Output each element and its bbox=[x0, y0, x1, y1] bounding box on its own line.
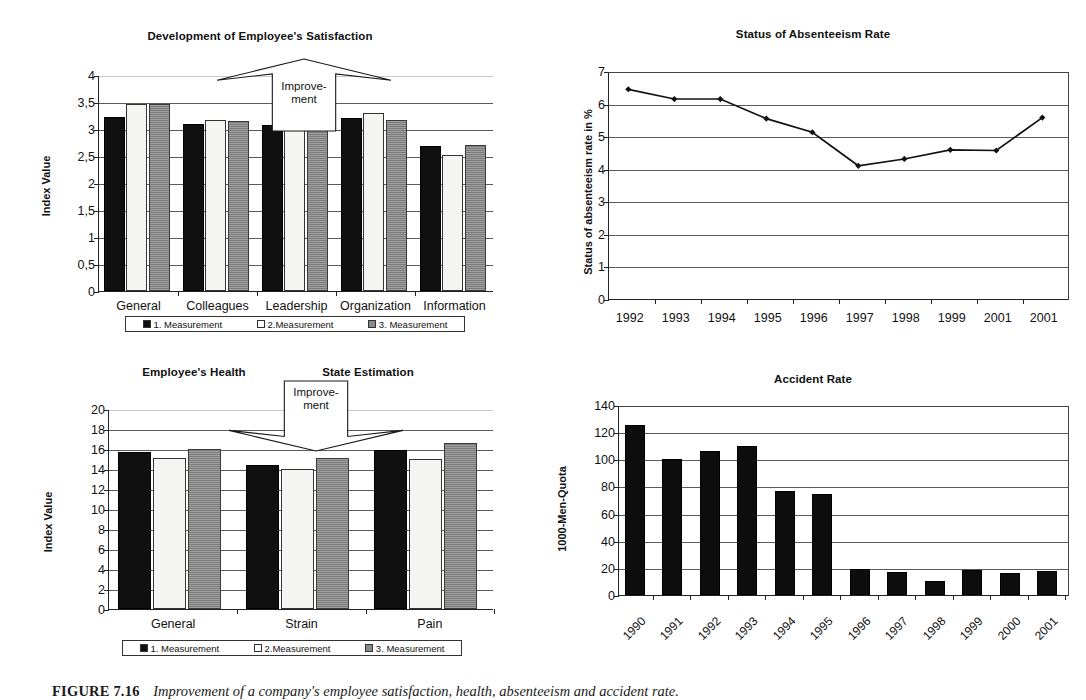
y-tick-label: 2 bbox=[88, 177, 95, 191]
satisfaction-chart-title: Development of Employee's Satisfaction bbox=[0, 30, 520, 42]
y-tick-label: 0 bbox=[608, 589, 615, 603]
y-tick-label: 6 bbox=[98, 543, 105, 557]
bar-1999 bbox=[962, 570, 982, 595]
x-tick-mark bbox=[690, 595, 691, 600]
absenteeism-chart-title: Status of Absenteeism Rate bbox=[560, 28, 1066, 40]
y-tick-label: 0,5 bbox=[78, 258, 95, 272]
bar-general-series3 bbox=[188, 449, 221, 609]
x-axis-label: 2000 bbox=[995, 614, 1024, 643]
x-axis-label: 1999 bbox=[957, 614, 986, 643]
bar-1996 bbox=[850, 569, 870, 595]
y-tick-label: 1 bbox=[598, 260, 605, 274]
health-legend-item-1: 1. Measurement bbox=[123, 643, 236, 654]
bar-2001 bbox=[1037, 571, 1057, 595]
bar-general-series1 bbox=[118, 452, 151, 609]
x-axis-label: 1998 bbox=[892, 311, 920, 325]
x-tick-mark bbox=[953, 595, 954, 600]
plot-frame bbox=[619, 406, 1069, 596]
chart-health: Employee's Health State Estimation Index… bbox=[0, 348, 520, 668]
legend-swatch-series1 bbox=[140, 644, 148, 652]
y-tick-label: 3,5 bbox=[78, 96, 95, 110]
x-axis-label: 1998 bbox=[920, 614, 949, 643]
y-tick-label: 4 bbox=[598, 163, 605, 177]
y-tick-label: 80 bbox=[601, 480, 615, 494]
y-tick-label: 4 bbox=[88, 69, 95, 83]
x-tick-mark bbox=[701, 299, 702, 304]
bar-1991 bbox=[662, 459, 682, 595]
bar-1993 bbox=[737, 446, 757, 595]
y-tick-label: 7 bbox=[598, 65, 605, 79]
legend-label-series2: 2.Measurement bbox=[268, 319, 334, 330]
satisfaction-legend: 1. Measurement2.Measurement3. Measuremen… bbox=[125, 316, 465, 332]
x-tick-mark bbox=[931, 299, 932, 304]
x-tick-mark bbox=[765, 595, 766, 600]
legend-swatch-series2 bbox=[257, 320, 265, 328]
x-axis-label: 1997 bbox=[882, 614, 911, 643]
satisfaction-y-axis-label: Index Value bbox=[40, 126, 52, 246]
legend-swatch-series1 bbox=[143, 320, 151, 328]
health-chart-title-left: Employee's Health bbox=[104, 366, 284, 378]
bar-1992 bbox=[700, 451, 720, 595]
x-axis-label: 1994 bbox=[770, 614, 799, 643]
bar-strain-series2 bbox=[281, 469, 314, 609]
x-axis-label: 1995 bbox=[807, 614, 836, 643]
bar-general-series2 bbox=[153, 458, 186, 609]
x-tick-mark bbox=[415, 291, 416, 296]
satisfaction-improvement-callout-text-line2: ment bbox=[216, 93, 392, 106]
bar-1994 bbox=[775, 491, 795, 595]
legend-swatch-series3 bbox=[368, 320, 376, 328]
x-tick-mark bbox=[653, 595, 654, 600]
health-improvement-callout-text: Improve-ment bbox=[228, 386, 404, 412]
y-tick-label: 16 bbox=[91, 443, 105, 457]
bar-leadership-series3 bbox=[307, 125, 328, 291]
x-tick-mark bbox=[840, 595, 841, 600]
x-tick-mark bbox=[793, 299, 794, 304]
y-tick-label: 0 bbox=[598, 293, 605, 307]
y-tick-label: 3 bbox=[598, 195, 605, 209]
y-tick-label: 2,5 bbox=[78, 150, 95, 164]
absenteeism-line-series bbox=[609, 72, 1069, 300]
bar-organization-series3 bbox=[386, 120, 407, 291]
x-tick-mark bbox=[494, 609, 495, 614]
satisfaction-improvement-callout-text-line1: Improve- bbox=[216, 80, 392, 93]
bar-information-series3 bbox=[465, 145, 486, 291]
x-tick-mark bbox=[728, 595, 729, 600]
absenteeism-plot-area: 0123456719921993199419951996199719981999… bbox=[608, 72, 1068, 300]
bar-pain-series2 bbox=[409, 459, 442, 609]
figure-caption: FIGURE 7.16 Improvement of a company's e… bbox=[52, 683, 679, 700]
x-axis-label: 1999 bbox=[938, 311, 966, 325]
bar-1995 bbox=[812, 494, 832, 595]
x-axis-label: 1990 bbox=[620, 614, 649, 643]
y-tick-label: 60 bbox=[601, 508, 615, 522]
x-tick-mark bbox=[747, 299, 748, 304]
figure-caption-text: Improvement of a company's employee sati… bbox=[153, 683, 679, 699]
y-tick-label: 6 bbox=[598, 98, 605, 112]
legend-label-series2: 2.Measurement bbox=[265, 643, 331, 654]
legend-label-series3: 3. Measurement bbox=[379, 319, 448, 330]
x-tick-mark bbox=[336, 291, 337, 296]
y-tick-label: 3 bbox=[88, 123, 95, 137]
x-tick-mark bbox=[839, 299, 840, 304]
satisfaction-legend-item-3: 3. Measurement bbox=[351, 319, 464, 330]
x-tick-mark bbox=[803, 595, 804, 600]
health-legend: 1. Measurement2.Measurement3. Measuremen… bbox=[122, 640, 462, 656]
y-tick-label: 4 bbox=[98, 563, 105, 577]
bar-colleagues-series1 bbox=[183, 124, 204, 291]
x-tick-mark bbox=[885, 299, 886, 304]
y-tick-label: 5 bbox=[598, 130, 605, 144]
health-improvement-callout: Improve-ment bbox=[228, 380, 404, 452]
bar-organization-series1 bbox=[341, 118, 362, 291]
x-axis-label: Leadership bbox=[266, 299, 328, 313]
x-axis-label: General bbox=[151, 617, 195, 631]
x-axis-label: 1993 bbox=[732, 614, 761, 643]
y-tick-label: 100 bbox=[594, 453, 615, 467]
figure-caption-label: FIGURE 7.16 bbox=[52, 683, 140, 699]
x-tick-mark bbox=[977, 299, 978, 304]
y-tick-label: 2 bbox=[598, 228, 605, 242]
y-tick-label: 140 bbox=[594, 399, 615, 413]
bar-pain-series1 bbox=[374, 450, 407, 609]
satisfaction-legend-item-1: 1. Measurement bbox=[126, 319, 239, 330]
bar-strain-series1 bbox=[246, 465, 279, 609]
absenteeism-y-axis-label: Status of absenteeism rate in % bbox=[582, 82, 594, 302]
y-tick-label: 10 bbox=[91, 503, 105, 517]
